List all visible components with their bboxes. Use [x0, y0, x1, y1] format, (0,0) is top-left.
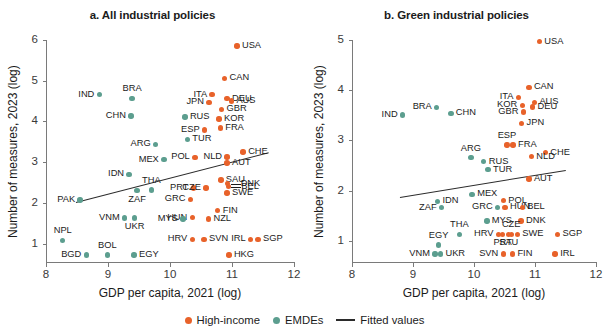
scatter-point [97, 92, 102, 97]
scatter-point [555, 232, 560, 237]
scatter-point [131, 252, 136, 257]
scatter-point [537, 39, 542, 44]
y-axis-tick-label: 2 [324, 185, 344, 197]
scatter-point [209, 92, 214, 97]
scatter-point-label: NPL [54, 227, 72, 236]
scatter-point [520, 103, 525, 108]
figure-root: a. All industrial policies 1234568910111… [0, 0, 609, 335]
scatter-point [224, 154, 229, 159]
scatter-point-label: POL [171, 153, 190, 162]
scatter-point-label: CAN [230, 74, 250, 83]
scatter-point [520, 205, 525, 210]
y-axis-tick-label: 5 [18, 75, 38, 87]
scatter-point-label: HKG [234, 250, 254, 259]
y-axis-label: Number of measures, 2023 (log) [312, 65, 326, 238]
y-axis-tick-label: 3 [324, 134, 344, 146]
scatter-point [515, 232, 520, 237]
x-axis-tick [352, 263, 353, 267]
scatter-point-label: CAN [534, 83, 554, 92]
panel-all-industrial-policies: a. All industrial policies 1234568910111… [0, 0, 305, 300]
scatter-point-label: ZAF [419, 203, 437, 212]
x-axis-tick [232, 263, 233, 267]
scatter-point [188, 197, 193, 202]
scatter-point-label: ARG [131, 140, 151, 149]
scatter-point-label: SVN [479, 249, 498, 258]
panel-green-industrial-policies: b. Green industrial policies 12345891011… [304, 0, 609, 300]
scatter-point-label: ESP [498, 131, 517, 140]
y-axis-line [352, 40, 353, 262]
y-axis-tick [43, 203, 46, 204]
scatter-point [132, 215, 137, 220]
scatter-point-label: BOL [98, 241, 117, 250]
y-axis-tick-label: 5 [324, 34, 344, 46]
scatter-point-label: AUT [534, 174, 553, 183]
scatter-point [224, 190, 229, 195]
scatter-point-label: UKR [125, 222, 145, 231]
scatter-point [122, 215, 127, 220]
scatter-point-label: RUS [190, 112, 210, 121]
scatter-point-label: GRC [472, 203, 493, 212]
scatter-point [457, 232, 462, 237]
scatter-point [77, 197, 82, 202]
scatter-point-label: CZE [182, 183, 201, 192]
scatter-point [149, 187, 154, 192]
scatter-point-label: THA [450, 221, 469, 230]
scatter-point [129, 96, 134, 101]
legend-item-high-income: High-income [185, 314, 260, 326]
scatter-point [190, 237, 195, 242]
scatter-point [206, 100, 211, 105]
scatter-point [240, 149, 245, 154]
x-axis-tick [596, 263, 597, 267]
scatter-point-label: TUR [493, 165, 512, 174]
scatter-point-label: SWE [232, 189, 253, 198]
scatter-point [529, 154, 534, 159]
y-axis-tick-label: 6 [18, 34, 38, 46]
y-axis-tick [349, 241, 352, 242]
scatter-point [84, 252, 89, 257]
scatter-point [500, 232, 505, 237]
scatter-point-label: BRA [413, 103, 432, 112]
scatter-point-label: SGP [263, 235, 283, 244]
y-axis-tick-label: 4 [324, 84, 344, 96]
x-axis-tick [108, 263, 109, 267]
x-axis-tick-label: 11 [524, 269, 546, 281]
scatter-point [192, 155, 197, 160]
scatter-point [216, 116, 221, 121]
scatter-point-label: FRA [518, 140, 537, 149]
y-axis-tick [43, 40, 46, 41]
scatter-point-label: CHE [248, 147, 268, 156]
scatter-point-label: EGY [139, 250, 159, 259]
scatter-point [510, 142, 515, 147]
scatter-point-label: ZAF [128, 195, 146, 204]
scatter-point-label: USA [242, 41, 261, 50]
scatter-point-label: MYS [492, 216, 512, 225]
y-axis-tick [349, 90, 352, 91]
y-axis-label: Number of measures, 2023 (log) [6, 65, 20, 238]
scatter-point [206, 216, 211, 221]
scatter-point-label: CHN [106, 112, 126, 121]
y-axis-tick [43, 121, 46, 122]
y-axis-tick [349, 191, 352, 192]
scatter-point-label: DEU [538, 102, 558, 111]
scatter-point-label: IND [382, 110, 398, 119]
x-axis-tick-label: 12 [283, 269, 305, 281]
scatter-point-label: SVN [209, 235, 228, 244]
scatter-point-label: NLD [203, 152, 222, 161]
scatter-point [219, 107, 224, 112]
scatter-point-label: IRL [231, 235, 245, 244]
scatter-point [448, 111, 453, 116]
y-axis-line [46, 40, 47, 262]
scatter-point-label: HRV [474, 230, 493, 239]
x-axis-tick-label: 12 [585, 269, 607, 281]
y-axis-tick [349, 40, 352, 41]
x-axis-tick [170, 263, 171, 267]
scatter-point-label: FRA [225, 123, 244, 132]
y-axis-tick [43, 244, 46, 245]
scatter-point [126, 172, 131, 177]
scatter-point [105, 252, 110, 257]
legend-label-emdes: EMDEs [285, 314, 323, 326]
scatter-point-label: VNM [409, 249, 430, 258]
scatter-point [60, 238, 65, 243]
scatter-point [201, 237, 206, 242]
scatter-point [504, 142, 509, 147]
